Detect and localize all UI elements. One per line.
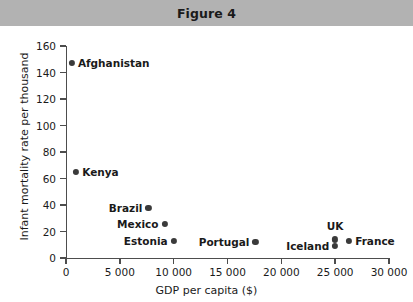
x-tick bbox=[173, 258, 174, 264]
figure-container: Figure 4 020406080100120140160 05 00010 … bbox=[0, 0, 413, 302]
data-point-label: Iceland bbox=[286, 241, 329, 252]
x-axis-title: GDP per capita ($) bbox=[0, 284, 413, 297]
y-tick bbox=[60, 178, 66, 179]
figure-title: Figure 4 bbox=[177, 6, 236, 21]
x-tick bbox=[119, 258, 120, 264]
data-point-label: Estonia bbox=[124, 235, 168, 246]
data-point-label: Brazil bbox=[109, 202, 143, 213]
x-tick-label: 10 000 bbox=[155, 267, 192, 278]
data-point bbox=[332, 236, 338, 242]
x-tick-label: 15 000 bbox=[209, 267, 246, 278]
data-point bbox=[69, 60, 75, 66]
data-point-label: Mexico bbox=[117, 218, 158, 229]
x-tick bbox=[334, 258, 335, 264]
data-point bbox=[252, 239, 258, 245]
x-tick-label: 30 000 bbox=[371, 267, 408, 278]
data-point bbox=[346, 238, 352, 244]
x-tick-label: 25 000 bbox=[317, 267, 354, 278]
data-point-label: UK bbox=[327, 221, 344, 232]
y-tick bbox=[60, 98, 66, 99]
x-tick-label: 0 bbox=[63, 267, 70, 278]
y-tick bbox=[60, 204, 66, 205]
data-point-label: Kenya bbox=[82, 166, 118, 177]
data-point bbox=[73, 169, 79, 175]
y-tick bbox=[60, 151, 66, 152]
data-point bbox=[171, 238, 177, 244]
y-tick bbox=[60, 45, 66, 46]
figure-header: Figure 4 bbox=[0, 0, 413, 26]
y-tick bbox=[60, 125, 66, 126]
data-point-label: France bbox=[355, 235, 395, 246]
scatter-plot: 020406080100120140160 05 00010 00015 000… bbox=[0, 26, 413, 302]
data-point-label: Portugal bbox=[199, 237, 250, 248]
data-point bbox=[332, 243, 338, 249]
x-tick bbox=[65, 258, 66, 264]
data-point bbox=[145, 205, 151, 211]
data-point bbox=[161, 220, 167, 226]
x-tick bbox=[227, 258, 228, 264]
y-axis-line bbox=[66, 46, 67, 259]
x-tick-label: 5 000 bbox=[105, 267, 135, 278]
y-tick bbox=[60, 72, 66, 73]
y-axis-title: Infant mortality rate per thousand bbox=[18, 37, 31, 257]
x-tick-label: 20 000 bbox=[263, 267, 300, 278]
x-tick bbox=[388, 258, 389, 264]
x-tick bbox=[281, 258, 282, 264]
data-point-label: Afghanistan bbox=[78, 58, 150, 69]
y-tick bbox=[60, 231, 66, 232]
